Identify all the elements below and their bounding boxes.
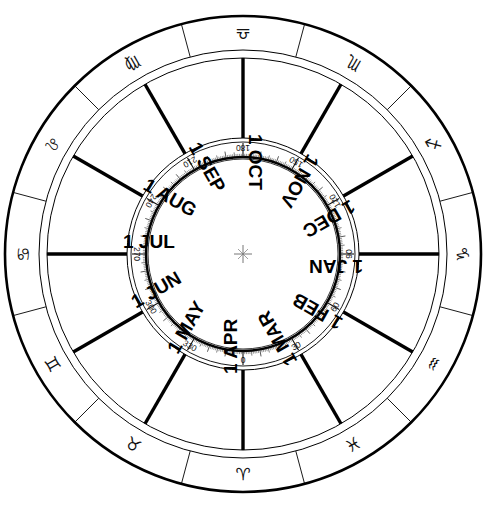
month-divider (145, 84, 185, 153)
scorpio-glyph: ♏ (341, 51, 364, 76)
month-divider (301, 354, 341, 423)
month-label: 1 JUL (123, 231, 175, 252)
zodiac-divider (13, 192, 46, 201)
month-divider (301, 84, 341, 153)
virgo-glyph: ♍ (121, 51, 144, 76)
zodiac-divider (440, 307, 473, 316)
zodiac-divider (75, 86, 99, 110)
zodiac-divider (387, 86, 411, 110)
degree-label: 180 (236, 143, 250, 153)
month-divider (343, 156, 412, 196)
center-mark (234, 245, 252, 263)
zodiac-divider (181, 24, 190, 57)
degree-label: 90 (344, 249, 354, 259)
zodiac-divider (296, 24, 305, 57)
zodiac-divider (181, 451, 190, 484)
degree-tick (305, 328, 309, 333)
libra-glyph: ♎ (235, 24, 250, 44)
pisces-glyph: ♓ (341, 432, 364, 457)
zodiac-divider (75, 398, 99, 422)
month-divider (145, 354, 185, 423)
aquarius-glyph: ♒ (421, 352, 446, 375)
degree-tick (317, 187, 322, 191)
degree-label: 270 (132, 247, 142, 261)
taurus-glyph: ♉ (121, 432, 144, 457)
month-divider (343, 312, 412, 352)
zodiac-divider (440, 192, 473, 201)
month-label: 1 OCT (245, 134, 266, 190)
leo-glyph: ♌ (40, 132, 65, 155)
month-divider (73, 156, 142, 196)
dial-canvas: ♎♏♐♑♒♓♈♉♊♋♌♍ 1 OCT1 NOV1 DEC1 JAN1 FEB1 … (0, 0, 488, 507)
calendar-dial: ♎♏♐♑♒♓♈♉♊♋♌♍ 1 OCT1 NOV1 DEC1 JAN1 FEB1 … (0, 0, 488, 507)
capricorn-glyph: ♑ (453, 246, 473, 261)
degree-tick (163, 316, 168, 320)
degree-tick (176, 174, 180, 179)
sagittarius-glyph: ♐ (421, 132, 446, 155)
month-label: 1 MAR (253, 307, 301, 369)
zodiac-divider (296, 451, 305, 484)
month-label: 1 JAN (309, 256, 363, 277)
month-label: 1 APR (220, 318, 241, 374)
gemini-glyph: ♊ (40, 352, 65, 375)
aries-glyph: ♈ (235, 464, 250, 484)
zodiac-divider (387, 398, 411, 422)
month-divider (73, 312, 142, 352)
cancer-glyph: ♋ (13, 246, 33, 261)
zodiac-divider (13, 307, 46, 316)
degree-label: 0 (241, 355, 246, 365)
